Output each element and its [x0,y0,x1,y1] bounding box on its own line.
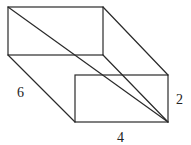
back-face [8,7,103,55]
prism-diagram: 6 2 4 [0,0,191,145]
height-label: 2 [176,92,183,107]
front-face [75,75,168,122]
depth-label: 6 [17,85,24,100]
space-diagonal [8,7,168,122]
width-label: 4 [117,130,124,145]
